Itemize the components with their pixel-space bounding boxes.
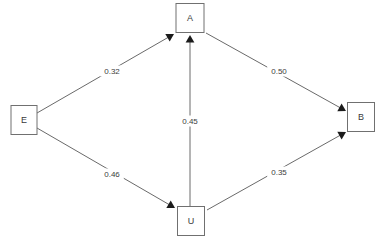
edge-line (37, 128, 170, 205)
node-u[interactable]: U (178, 207, 205, 236)
node-label: U (188, 216, 195, 226)
edge-weight-label: 0.32 (104, 67, 120, 76)
edge-weight-label: 0.46 (104, 170, 120, 179)
edge-weight-e-u: 0.46 (100, 169, 124, 180)
edge-weight-label: 0.45 (182, 117, 198, 126)
edge-labels-layer: 0.320.460.450.500.35 (100, 66, 291, 180)
node-a[interactable]: A (176, 4, 204, 33)
edge-weight-u-b: 0.35 (267, 167, 291, 178)
node-label: A (187, 13, 193, 23)
node-label: B (358, 112, 364, 122)
edge-e-u (37, 128, 175, 208)
diagram-canvas: AEBU 0.320.460.450.500.35 (0, 0, 377, 245)
node-b[interactable]: B (348, 103, 375, 132)
path-diagram: AEBU 0.320.460.450.500.35 (0, 0, 377, 245)
node-label: E (21, 115, 27, 125)
edge-weight-label: 0.35 (271, 168, 287, 177)
edge-weight-a-b: 0.50 (267, 66, 291, 77)
edge-weight-u-a: 0.45 (178, 116, 202, 127)
arrowhead-icon (186, 35, 195, 43)
edge-weight-label: 0.50 (271, 67, 287, 76)
edge-weight-e-a: 0.32 (100, 66, 124, 77)
node-e[interactable]: E (11, 106, 37, 135)
